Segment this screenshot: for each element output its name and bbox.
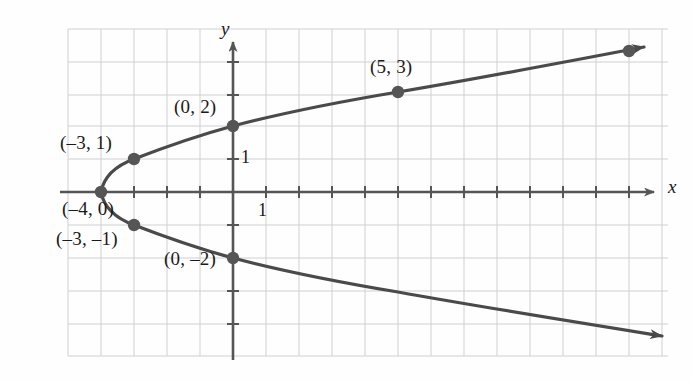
graph-figure: (–4, 0) (–3, 1) (–3, –1) (0, 2) (0, –2) … — [0, 0, 692, 382]
point-0-minus2 — [227, 252, 239, 264]
y-axis-label: y — [221, 18, 229, 40]
point-endpoint-upper — [623, 45, 635, 57]
point-label-minus4-0: (–4, 0) — [62, 198, 114, 220]
x-axis-label: x — [668, 176, 676, 198]
point-5-3 — [392, 86, 404, 98]
point-label-0-2: (0, 2) — [174, 96, 216, 118]
graph-canvas — [0, 0, 692, 382]
point-0-2 — [227, 120, 239, 132]
point-minus3-minus1 — [128, 219, 140, 231]
point-label-minus3-minus1: (–3, –1) — [56, 228, 118, 250]
point-minus3-1 — [128, 153, 140, 165]
point-label-5-3: (5, 3) — [370, 56, 412, 78]
point-label-0-minus2: (0, –2) — [164, 248, 216, 270]
point-minus4-0 — [95, 186, 107, 198]
x-axis-unit-tick-label: 1 — [258, 200, 267, 221]
x-axis — [60, 186, 654, 198]
point-label-minus3-1: (–3, 1) — [60, 132, 112, 154]
y-axis-unit-tick-label: 1 — [241, 147, 250, 168]
y-axis — [227, 42, 239, 360]
